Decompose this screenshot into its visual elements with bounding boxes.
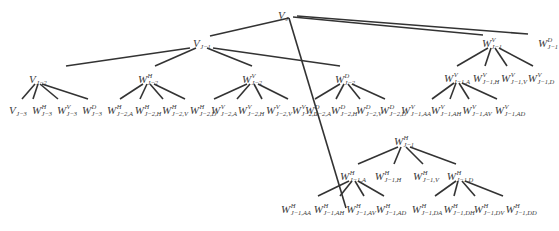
node-scripts: VJ−1 [492, 37, 503, 51]
node-subscript: J−1 [492, 44, 503, 51]
node-scripts: VJ−1,AD [504, 104, 525, 118]
node-subscript: J−1,D [456, 177, 473, 184]
node-scripts: VJ−1,A [454, 72, 470, 86]
node-scripts: HJ−1,DH [453, 203, 475, 217]
tree-node: WHJ−1,AA [281, 200, 311, 216]
node-subscript: J−2 [252, 80, 263, 87]
node-symbol: W [444, 72, 453, 84]
node-scripts: HJ−1,H [384, 170, 401, 184]
node-scripts: VJ−2,A [221, 104, 237, 118]
tree-edge [454, 181, 458, 196]
node-symbol: W [238, 104, 247, 116]
node-subscript: J−1,AV [356, 210, 376, 217]
node-symbol: W [462, 104, 471, 116]
tree-edge [213, 48, 340, 66]
node-symbol: W [380, 104, 389, 116]
node-scripts: HJ−1,AA [291, 203, 311, 217]
tree-edge [435, 181, 456, 196]
node-subscript: J−2 [36, 80, 47, 87]
tree-node: WVJ−3 [57, 101, 77, 117]
node-symbol: W [376, 203, 385, 215]
node-scripts: HJ−1,AD [385, 203, 406, 217]
tree-node: WHJ−2,H [135, 101, 162, 117]
node-symbol: W [505, 203, 514, 215]
node-symbol: W [292, 104, 301, 116]
tree-edge [499, 48, 533, 66]
tree-node: WHJ−1,V [413, 167, 439, 183]
node-subscript: J−1,AA [291, 210, 311, 217]
node-symbol: W [394, 135, 403, 147]
node-subscript: J−1,AV [472, 111, 492, 118]
node-symbol: V [193, 37, 200, 49]
node-subscript: J−1,AD [385, 210, 406, 217]
tree-node: WDJ−2,V [356, 101, 382, 117]
tree-node: WVJ−1,AH [431, 101, 461, 117]
tree-node: WDJ−2,A [305, 101, 331, 117]
tree-edge [66, 48, 190, 66]
node-scripts: DJ−2,H [340, 104, 357, 118]
node-scripts: VJ−1,AH [440, 104, 461, 118]
tree-node: WHJ−1,AV [346, 200, 375, 216]
node-subscript: J−1 [548, 44, 559, 51]
node-symbol: W [495, 104, 504, 116]
node-scripts: HJ−1 [404, 135, 415, 149]
node-scripts: J−3 [16, 104, 27, 118]
node-subscript: J−1,DD [515, 210, 537, 217]
tree-edge [394, 147, 401, 164]
node-subscript: J−1 [200, 44, 211, 51]
node-symbol: W [473, 72, 482, 84]
node-symbol: W [107, 104, 116, 116]
node-subscript: J−1,AD [504, 111, 525, 118]
node-scripts: VJ−1,V [511, 72, 527, 86]
tree-node: WHJ−3 [32, 101, 52, 117]
node-scripts: HJ−1,A [350, 170, 366, 184]
node-subscript: J−2 [148, 80, 159, 87]
tree-edge [462, 181, 475, 196]
node-subscript: J−3 [67, 111, 78, 118]
tree-edge [154, 84, 185, 99]
node-scripts: DJ−2 [345, 73, 356, 87]
node-scripts: HJ−1,D [456, 170, 473, 184]
node-scripts: HJ−1,AH [323, 203, 344, 217]
node-scripts: HJ−3 [42, 104, 53, 118]
tree-edge [410, 147, 456, 164]
node-symbol: V [9, 104, 16, 116]
node-symbol: W [190, 104, 199, 116]
node-symbol: W [32, 104, 41, 116]
node-symbol: W [528, 72, 537, 84]
node-symbol: W [82, 104, 91, 116]
node-subscript: J−1,DH [453, 210, 475, 217]
node-subscript: J−1,H [384, 177, 401, 184]
node-subscript: J−2,H [340, 111, 357, 118]
node-scripts: DJ−3 [92, 104, 103, 118]
tree-node: WHJ−1,AD [376, 200, 406, 216]
node-symbol: V [29, 73, 36, 85]
node-scripts: DJ−2,A [315, 104, 331, 118]
node-symbol: W [346, 203, 355, 215]
node-scripts: VJ−1,H [482, 72, 499, 86]
node-subscript: J−1,AA [411, 111, 431, 118]
node-subscript: J−2,V [276, 111, 292, 118]
tree-edge [318, 181, 349, 196]
node-symbol: W [474, 203, 483, 215]
tree-node: VJ [278, 6, 288, 22]
tree-node: WVJ−2,V [266, 101, 292, 117]
node-symbol: W [335, 73, 344, 85]
node-scripts: HJ−1,DD [515, 203, 537, 217]
node-subscript: J−1,V [511, 79, 527, 86]
node-scripts: J [285, 9, 288, 23]
tree-node: WHJ−1,H [375, 167, 402, 183]
tree-edge [120, 84, 143, 99]
tree-edge [406, 147, 423, 164]
tree-node: WHJ−1,D [447, 167, 474, 183]
node-subscript: J−2,H [144, 111, 161, 118]
tree-edge [358, 147, 398, 164]
node-symbol: W [331, 104, 340, 116]
tree-node: WHJ−1,DD [505, 200, 536, 216]
node-scripts: VJ−1,D [537, 72, 554, 86]
tree-node: WHJ−1,AH [314, 200, 344, 216]
node-scripts: HJ−2,H [144, 104, 161, 118]
node-scripts: VJ−1,AV [472, 104, 492, 118]
node-scripts: VJ−3 [67, 104, 78, 118]
node-scripts: HJ−1,DA [421, 203, 442, 217]
